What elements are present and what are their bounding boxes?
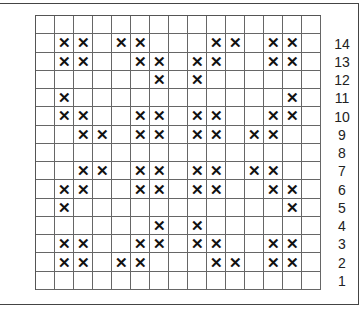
grid-cell: ✕: [207, 107, 226, 125]
grid-cell: ✕: [226, 34, 245, 52]
grid-cell: [302, 126, 321, 144]
grid-cell: ✕: [283, 89, 302, 107]
grid-cell: [264, 16, 283, 34]
grid-cell: [169, 235, 188, 253]
grid-cell: [264, 71, 283, 89]
cross-mark-icon: ✕: [191, 163, 204, 178]
grid-cell: [207, 144, 226, 162]
grid-cell: ✕: [207, 162, 226, 180]
cross-mark-icon: ✕: [58, 90, 71, 105]
grid-cell: [226, 180, 245, 198]
grid-cell: [74, 89, 93, 107]
grid-cell: ✕: [264, 34, 283, 52]
grid-cell: [302, 235, 321, 253]
grid-cell: [55, 16, 74, 34]
grid-cell: ✕: [93, 126, 112, 144]
cross-mark-icon: ✕: [115, 35, 128, 50]
grid-cell: [245, 235, 264, 253]
grid-cell: [188, 272, 207, 290]
grid-cell: ✕: [55, 199, 74, 217]
grid-cell: [169, 217, 188, 235]
grid-cell: [93, 53, 112, 71]
grid-cell: ✕: [131, 180, 150, 198]
grid-cell: [302, 89, 321, 107]
grid-cell: ✕: [131, 253, 150, 271]
grid-cell: ✕: [207, 53, 226, 71]
grid-cell: [93, 107, 112, 125]
grid-cell: ✕: [283, 199, 302, 217]
cross-mark-icon: ✕: [210, 54, 223, 69]
grid-cell: ✕: [55, 89, 74, 107]
grid-cell: [93, 180, 112, 198]
cross-mark-icon: ✕: [134, 255, 147, 270]
grid-cell: [188, 34, 207, 52]
grid-cell: [188, 89, 207, 107]
grid-cell: [169, 126, 188, 144]
grid-cell: ✕: [264, 53, 283, 71]
grid-cell: [264, 199, 283, 217]
cross-mark-icon: ✕: [191, 72, 204, 87]
row-labels: 1413121110987654321: [327, 15, 357, 289]
grid-cell: [283, 272, 302, 290]
grid-cell: [245, 34, 264, 52]
grid-cell: ✕: [55, 180, 74, 198]
grid-cell: [302, 199, 321, 217]
cross-mark-icon: ✕: [267, 255, 280, 270]
grid-cell: ✕: [264, 126, 283, 144]
grid-cell: [226, 53, 245, 71]
cross-mark-icon: ✕: [191, 108, 204, 123]
grid-cell: ✕: [55, 34, 74, 52]
grid-cell: ✕: [245, 162, 264, 180]
cross-mark-icon: ✕: [134, 236, 147, 251]
grid-cell: [169, 53, 188, 71]
cross-mark-icon: ✕: [286, 200, 299, 215]
cross-mark-icon: ✕: [286, 35, 299, 50]
grid-cell: [131, 16, 150, 34]
grid-cell: [245, 272, 264, 290]
grid-cell: [131, 89, 150, 107]
row-label: 13: [327, 52, 357, 70]
cross-mark-icon: ✕: [153, 182, 166, 197]
grid-cell: ✕: [264, 162, 283, 180]
row-label: 5: [327, 198, 357, 216]
grid-cell: [207, 16, 226, 34]
cross-mark-icon: ✕: [58, 108, 71, 123]
grid-cell: ✕: [188, 180, 207, 198]
cross-mark-icon: ✕: [77, 108, 90, 123]
grid-cell: ✕: [245, 126, 264, 144]
grid-cell: ✕: [207, 180, 226, 198]
grid-cell: [188, 16, 207, 34]
cross-mark-icon: ✕: [115, 255, 128, 270]
grid-cell: [226, 235, 245, 253]
cross-mark-icon: ✕: [134, 35, 147, 50]
grid-cell: [55, 162, 74, 180]
grid-cell: [93, 235, 112, 253]
grid-cell: [245, 217, 264, 235]
cross-mark-icon: ✕: [267, 182, 280, 197]
grid-cell: [93, 89, 112, 107]
grid-cell: [93, 71, 112, 89]
grid-cell: [131, 71, 150, 89]
cross-mark-icon: ✕: [210, 127, 223, 142]
cross-mark-icon: ✕: [210, 35, 223, 50]
cross-mark-icon: ✕: [210, 236, 223, 251]
grid-cell: [283, 126, 302, 144]
grid-cell: [150, 144, 169, 162]
cross-mark-icon: ✕: [191, 236, 204, 251]
grid-cell: [188, 144, 207, 162]
grid-cell: ✕: [207, 126, 226, 144]
cross-mark-icon: ✕: [77, 182, 90, 197]
grid-cell: ✕: [150, 235, 169, 253]
grid-cell: [150, 89, 169, 107]
cross-mark-icon: ✕: [210, 163, 223, 178]
grid-cell: [169, 199, 188, 217]
grid-cell: [207, 217, 226, 235]
grid-cell: [302, 34, 321, 52]
grid-cell: [226, 199, 245, 217]
grid-cell: ✕: [74, 180, 93, 198]
grid-cell: [245, 71, 264, 89]
cross-mark-icon: ✕: [58, 200, 71, 215]
grid-cell: ✕: [264, 253, 283, 271]
grid-cell: [226, 16, 245, 34]
cross-mark-icon: ✕: [286, 236, 299, 251]
